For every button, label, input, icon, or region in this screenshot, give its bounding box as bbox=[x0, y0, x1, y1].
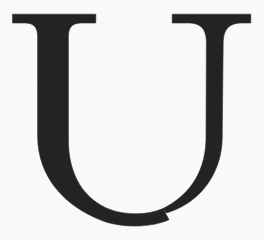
letter-u-glyph bbox=[0, 0, 264, 240]
letterform-canvas bbox=[0, 0, 264, 240]
